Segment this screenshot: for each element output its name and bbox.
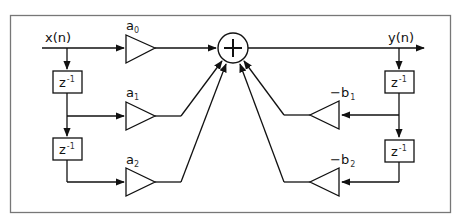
gain-a1-triangle xyxy=(126,102,155,130)
adder-node xyxy=(218,33,248,63)
output-label: y(n) xyxy=(388,30,414,45)
biquad-diagram: z-1 z-1 z-1 z-1 x(n) y(n) a0 a1 a2 −b1 −… xyxy=(0,0,461,224)
gain-b1-label: −b1 xyxy=(330,85,355,102)
delay-box-left-2: z-1 xyxy=(53,138,82,160)
delay-box-left-1: z-1 xyxy=(53,71,82,93)
gain-a2-triangle xyxy=(126,168,155,196)
gain-b1-triangle xyxy=(310,101,339,129)
gain-a2-label: a2 xyxy=(126,152,139,169)
gain-b2-label: −b2 xyxy=(330,152,355,169)
gain-a0-label: a0 xyxy=(126,18,139,35)
delay-box-right-2: z-1 xyxy=(385,140,414,162)
gain-b2-triangle xyxy=(310,168,339,196)
gain-a0-triangle xyxy=(126,35,155,63)
input-label: x(n) xyxy=(45,30,71,45)
delay-box-right-1: z-1 xyxy=(385,71,414,93)
gain-a1-label: a1 xyxy=(126,85,139,102)
